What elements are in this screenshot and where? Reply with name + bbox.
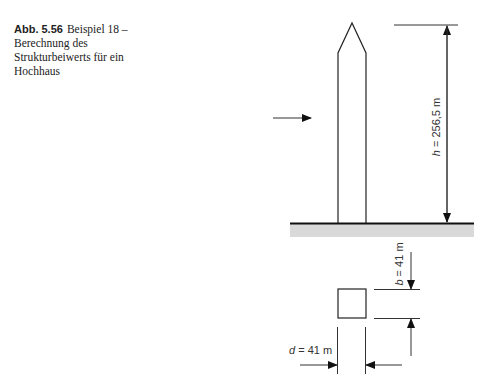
elevation-view: h = 256,5 m	[273, 23, 474, 237]
d-label: d = 41 m	[289, 344, 332, 356]
plan-square	[338, 289, 366, 318]
b-label: b = 41 m	[393, 242, 405, 285]
ground-hatch	[290, 224, 474, 237]
building-diagram: h = 256,5 m b = 41 m d = 41 m	[0, 0, 493, 392]
height-label: h = 256,5 m	[430, 98, 442, 156]
tower-outline	[338, 23, 366, 223]
plan-view: b = 41 m d = 41 m	[289, 242, 420, 374]
